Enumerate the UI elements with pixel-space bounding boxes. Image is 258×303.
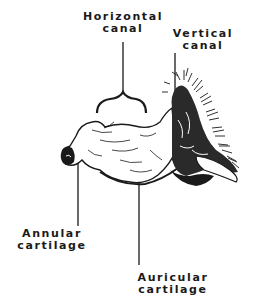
horizontal-canal-brace [97, 92, 146, 113]
ear-cartilage-drawing [61, 68, 239, 186]
auricular-cartilage-label-line2: cartilage [136, 284, 210, 296]
vertical-canal-label: Vertical canal [168, 28, 238, 52]
annular-cartilage-label-line2: cartilage [14, 240, 90, 252]
horizontal-canal-label-line2: canal [70, 23, 176, 35]
vertical-canal-label-line2: canal [168, 40, 238, 52]
auricular-cartilage-label: Auricular cartilage [136, 272, 210, 296]
annular-cartilage-label: Annular cartilage [14, 228, 90, 252]
horizontal-canal-label: Horizontal canal [70, 11, 176, 35]
